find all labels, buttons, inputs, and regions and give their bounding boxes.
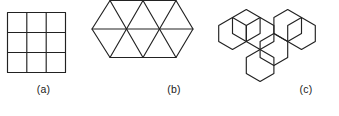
figure-b: (b) <box>85 0 205 116</box>
figure-c-caption: (c) <box>205 83 339 96</box>
figure-a-caption: (a) <box>0 83 85 96</box>
triangle-edge-u1 <box>110 1 127 30</box>
triangle-edge-l1 <box>110 29 127 58</box>
triangle-edge-l2 <box>127 29 144 58</box>
figure-a: (a) <box>0 0 85 116</box>
figure-panel: (a) (b) <box>0 0 339 116</box>
figure-c: (c) <box>205 0 339 116</box>
triangle-edge-u4 <box>160 1 177 30</box>
hexagon-cluster <box>219 10 316 82</box>
triangle-edge-u2 <box>127 1 144 30</box>
square-grid-outline <box>8 13 66 73</box>
triangle-edge-l3 <box>143 29 160 58</box>
figure-b-caption: (b) <box>85 83 205 96</box>
triangle-edge-l4 <box>160 29 177 58</box>
triangle-edge-u3 <box>143 1 160 30</box>
hexagon-tessellation-svg <box>205 0 339 83</box>
triangle-tessellation-svg <box>85 0 205 83</box>
square-grid-svg <box>0 0 85 83</box>
